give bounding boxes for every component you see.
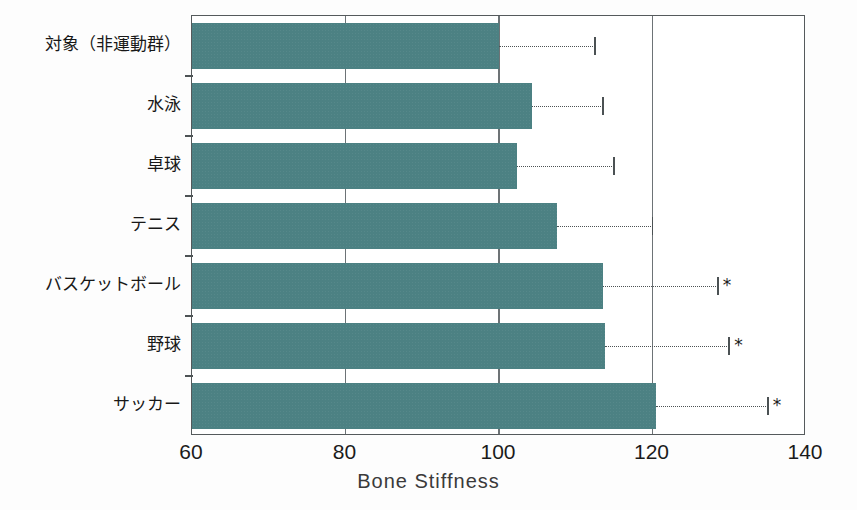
error-bar-cap-2 bbox=[613, 157, 615, 175]
category-label-6: サッカー bbox=[113, 396, 181, 413]
significance-marker-5: * bbox=[734, 337, 743, 354]
y-axis-tick-6 bbox=[185, 375, 193, 377]
bar-5 bbox=[192, 323, 605, 369]
category-label-5: 野球 bbox=[147, 336, 181, 353]
error-bar-line-4 bbox=[603, 286, 718, 287]
error-bar-cap-1 bbox=[602, 97, 604, 115]
error-bar-cap-0 bbox=[594, 37, 596, 55]
bar-6 bbox=[192, 383, 656, 429]
y-axis-tick-3 bbox=[185, 195, 193, 197]
x-tick-label-140: 140 bbox=[787, 441, 822, 462]
y-axis-tick-1 bbox=[185, 75, 193, 77]
category-label-2: 卓球 bbox=[147, 156, 181, 173]
bar-1 bbox=[192, 83, 532, 129]
error-bar-line-5 bbox=[605, 346, 729, 347]
error-bar-cap-5 bbox=[728, 337, 730, 355]
category-label-1: 水泳 bbox=[147, 96, 181, 113]
x-axis-title: Bone Stiffness bbox=[0, 470, 857, 493]
bar-3 bbox=[192, 203, 557, 249]
error-bar-cap-3 bbox=[652, 217, 654, 235]
error-bar-line-2 bbox=[517, 166, 614, 167]
x-tick-label-120: 120 bbox=[634, 441, 669, 462]
x-tick-label-100: 100 bbox=[480, 441, 515, 462]
y-axis-tick-2 bbox=[185, 135, 193, 137]
error-bar-line-3 bbox=[557, 226, 653, 227]
y-axis-tick-4 bbox=[185, 255, 193, 257]
bar-4 bbox=[192, 263, 603, 309]
bar-2 bbox=[192, 143, 517, 189]
error-bar-cap-6 bbox=[767, 397, 769, 415]
x-tick-label-60: 60 bbox=[179, 441, 202, 462]
error-bar-cap-4 bbox=[717, 277, 719, 295]
category-label-4: バスケットボール bbox=[45, 276, 181, 293]
significance-marker-6: * bbox=[773, 397, 782, 414]
category-label-3: テニス bbox=[130, 216, 181, 233]
error-bar-line-6 bbox=[656, 406, 767, 407]
category-axis-labels: 対象（非運動群） 水泳 卓球 テニス バスケットボール 野球 サッカー bbox=[0, 15, 186, 435]
plot-area: *** bbox=[191, 15, 805, 435]
significance-marker-4: * bbox=[723, 277, 732, 294]
y-axis-tick-5 bbox=[185, 315, 193, 317]
category-label-0: 対象（非運動群） bbox=[45, 36, 181, 53]
bone-stiffness-bar-chart: 対象（非運動群） 水泳 卓球 テニス バスケットボール 野球 サッカー *** … bbox=[0, 0, 857, 510]
error-bar-line-0 bbox=[499, 46, 595, 47]
error-bar-line-1 bbox=[532, 106, 603, 107]
bar-0 bbox=[192, 23, 499, 69]
x-tick-label-80: 80 bbox=[333, 441, 356, 462]
